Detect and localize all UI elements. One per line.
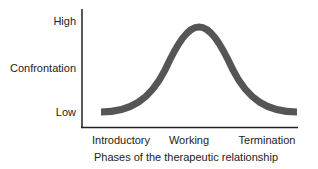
x-tick-introductory: Introductory <box>92 134 150 146</box>
y-tick-low: Low <box>0 106 76 118</box>
y-axis-label: Confrontation <box>0 62 76 74</box>
confrontation-curve <box>101 27 297 112</box>
x-tick-termination: Termination <box>239 134 296 146</box>
y-tick-high: High <box>0 15 76 27</box>
x-axis-label: Phases of the therapeutic relationship <box>94 151 278 163</box>
x-tick-working: Working <box>169 134 209 146</box>
